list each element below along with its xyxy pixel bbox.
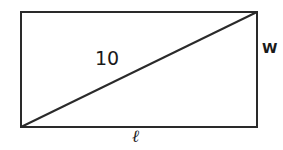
rectangle-diagram [0, 0, 283, 150]
diagonal-line [21, 12, 257, 127]
diagonal-length-label: 10 [95, 49, 119, 68]
width-label: W [262, 41, 277, 55]
length-label: ℓ [132, 128, 139, 145]
